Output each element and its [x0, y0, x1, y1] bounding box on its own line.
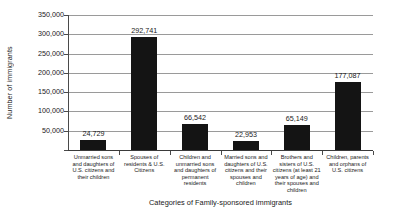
bar-group[interactable]: 292,741: [119, 15, 170, 150]
y-axis-tick-label: 200,000: [16, 69, 64, 77]
bar-group[interactable]: 177,087: [322, 15, 373, 150]
bar[interactable]: [131, 37, 157, 150]
x-axis-category-label: Children and unmarried sons and daughter…: [171, 154, 220, 187]
bar-group[interactable]: 24,729: [68, 15, 119, 150]
bar-group[interactable]: 22,953: [221, 15, 272, 150]
bar[interactable]: [182, 124, 208, 150]
x-axis-category-labels: Unmarried sons and daughters of U.S. cit…: [68, 154, 373, 198]
bar[interactable]: [80, 140, 106, 150]
bar-value-label: 292,741: [131, 27, 157, 35]
bar-value-label: 24,729: [82, 130, 104, 138]
x-axis-tickmark: [373, 151, 374, 155]
x-axis-category-label: Children, parents and orphans of U.S. ci…: [323, 154, 372, 174]
x-axis-category-label: Spouses of residents & U.S. Citizens: [120, 154, 169, 174]
y-axis-tick-labels: 350,000300,000250,000200,000150,000100,0…: [16, 15, 64, 151]
bar-value-label: 177,087: [335, 72, 361, 80]
bar-value-label: 22,953: [235, 131, 257, 139]
bar-group[interactable]: 66,542: [170, 15, 221, 150]
bar[interactable]: [335, 82, 361, 150]
y-axis-tick-label: 300,000: [16, 30, 64, 38]
bar-value-label: 66,542: [184, 114, 206, 122]
y-axis-tick-label: 250,000: [16, 50, 64, 58]
y-axis-tick-label: 150,000: [16, 88, 64, 96]
y-axis-tick-label: 50,000: [16, 127, 64, 135]
bar-group[interactable]: 65,149: [271, 15, 322, 150]
y-axis-title: Number of immigrants: [2, 18, 16, 148]
x-axis-category-label: Brothers and sisters of U.S. citizens (a…: [272, 154, 321, 194]
bar[interactable]: [233, 141, 259, 150]
y-axis-tick-label: 350,000: [16, 11, 64, 19]
x-axis-title: Categories of Family-sponsored immigrant…: [68, 198, 373, 207]
y-axis-tick-label: 100,000: [16, 107, 64, 115]
x-axis-category-label: Unmarried sons and daughters of U.S. cit…: [69, 154, 118, 180]
bar-value-label: 65,149: [286, 115, 308, 123]
bar[interactable]: [284, 125, 310, 150]
x-axis-category-label: Married sons and daughters of U.S. citiz…: [222, 154, 271, 187]
bars-layer: 24,729292,74166,54222,95365,149177,087: [68, 15, 373, 151]
bar-chart: Number of immigrants 350,000300,000250,0…: [0, 0, 393, 214]
plot-area: 24,729292,74166,54222,95365,149177,087: [68, 15, 373, 151]
